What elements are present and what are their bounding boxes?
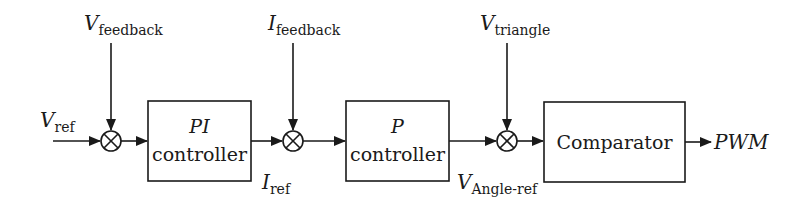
pi-block-subtitle: controller [152, 143, 248, 165]
summing-junction-3 [497, 131, 517, 151]
vangle-ref-label: VAngle-ref [457, 170, 539, 197]
summing-junction-2 [283, 131, 303, 151]
p-block-title: P [390, 115, 405, 137]
p-controller-block [346, 101, 449, 181]
vref-label: Vref [40, 108, 76, 135]
vfeedback-label: Vfeedback [84, 11, 163, 38]
summing-junction-1 [101, 131, 121, 151]
control-block-diagram: PI controller P controller Comparator Vr… [0, 0, 804, 203]
ifeedback-label: Ifeedback [267, 11, 341, 38]
iref-label: Iref [261, 170, 292, 197]
pi-controller-block [148, 101, 251, 181]
vtriangle-label: Vtriangle [480, 11, 550, 38]
comparator-block-title: Comparator [556, 131, 673, 153]
p-block-subtitle: controller [350, 143, 446, 165]
pwm-output-label: PWM [713, 130, 769, 154]
pi-block-title: PI [188, 115, 210, 137]
